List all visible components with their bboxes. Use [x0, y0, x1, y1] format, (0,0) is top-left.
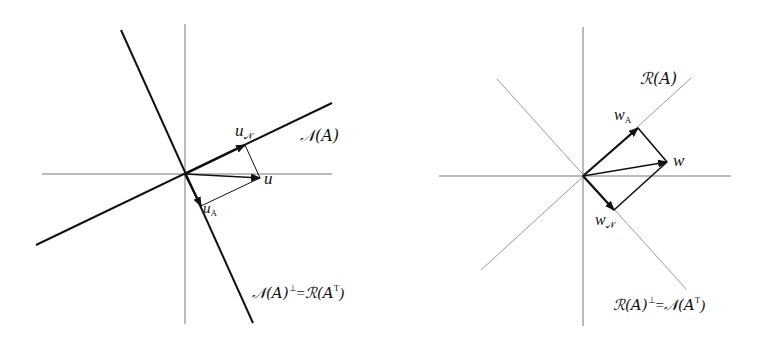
label-u-A-subscript: A [211, 208, 218, 218]
label-perp-lhs: 𝒩(A) [252, 284, 289, 302]
vector-w-N [583, 176, 614, 210]
label-u-A-base: u [203, 200, 211, 216]
label-u-N: u𝒩 [235, 122, 253, 141]
label-w: w [673, 152, 684, 169]
label-range-perp: ℛ(A)⊥=𝒩(AT) [613, 296, 705, 313]
projection-line-u-N [245, 145, 260, 178]
label-perp-equals: = [297, 285, 305, 301]
label-range-perp-rhs: 𝒩(A [664, 296, 695, 314]
label-null-space-perp: 𝒩(A)⊥=ℛ(AT) [252, 284, 344, 301]
label-u-N-subscript: 𝒩 [244, 131, 253, 141]
label-w-text: w [673, 151, 684, 170]
label-u-N-base: u [235, 121, 244, 140]
diagram-canvas [0, 0, 765, 344]
vector-u-N [185, 145, 245, 174]
label-u-A: uA [203, 201, 217, 218]
label-w-A: wA [614, 107, 631, 125]
label-range-perp-lhs: ℛ(A) [613, 296, 648, 314]
label-w-A-subscript: A [625, 115, 632, 125]
right-diagram [439, 27, 731, 326]
vector-u [185, 174, 260, 178]
label-range-perp-superscript: ⊥ [648, 295, 656, 305]
label-range-perp-equals: = [656, 297, 664, 313]
label-w-N-subscript: 𝒩 [606, 220, 615, 230]
label-range: ℛ(A) [640, 71, 677, 87]
label-perp-superscript: ⊥ [289, 283, 297, 293]
label-u: u [264, 170, 273, 187]
vector-u-A [185, 174, 201, 206]
label-null-space: 𝒩(A) [300, 128, 339, 144]
label-w-N-base: w [595, 211, 606, 228]
label-w-A-base: w [614, 106, 625, 123]
label-perp-rhs: ℛ(A [305, 284, 334, 302]
label-perp-close: ) [339, 285, 344, 301]
left-diagram [36, 24, 332, 324]
label-range-perp-close: ) [700, 297, 705, 313]
projection-line-w-A [638, 128, 667, 162]
label-u-text: u [264, 169, 273, 188]
label-w-N: w𝒩 [595, 212, 615, 230]
